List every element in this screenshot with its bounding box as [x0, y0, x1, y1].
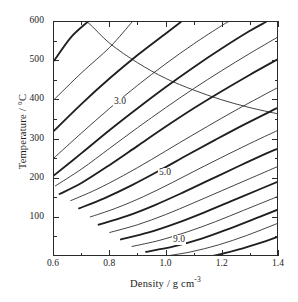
- contour-line: [110, 167, 277, 233]
- x-axis-major-tick-top: [278, 21, 279, 27]
- x-axis-minor-tick: [250, 253, 251, 257]
- y-axis-major-tick: [53, 217, 59, 218]
- x-axis-major-tick-top: [53, 21, 54, 27]
- contour-lines: [54, 22, 277, 255]
- contour-level-label: 9.0: [172, 235, 186, 245]
- x-axis-minor-tick-top: [81, 21, 82, 25]
- y-axis-minor-tick-right: [275, 41, 279, 42]
- contour-line: [121, 182, 277, 239]
- y-axis-minor-tick: [53, 158, 57, 159]
- contour-line: [71, 88, 277, 201]
- x-axis-tick-label: 1.4: [258, 259, 298, 269]
- x-axis-tick-label: 1.0: [146, 259, 186, 269]
- y-axis-minor-tick: [53, 80, 57, 81]
- x-axis-major-tick: [53, 250, 54, 256]
- x-axis-major-tick-top: [166, 21, 167, 27]
- y-axis-major-tick-right: [272, 139, 278, 140]
- x-axis-major-tick-top: [222, 21, 223, 27]
- x-axis-tick-label: 0.8: [89, 259, 129, 269]
- y-axis-major-tick-right: [272, 178, 278, 179]
- contour-line: [79, 108, 277, 208]
- y-axis-minor-tick-right: [275, 119, 279, 120]
- y-axis-major-tick-right: [272, 60, 278, 61]
- contour-line: [90, 131, 277, 217]
- y-axis-major-tick: [53, 60, 59, 61]
- x-axis-minor-tick-top: [194, 21, 195, 25]
- contour-figure: 3.05.09.0 100200300400500600 0.60.81.01.…: [0, 0, 298, 302]
- contour-line: [54, 22, 87, 61]
- y-axis-minor-tick: [53, 119, 57, 120]
- y-axis-major-tick-right: [272, 99, 278, 100]
- x-axis-major-tick: [109, 250, 110, 256]
- y-axis-minor-tick: [53, 236, 57, 237]
- y-axis-minor-tick: [53, 41, 57, 42]
- x-axis-major-tick-top: [109, 21, 110, 27]
- x-axis-minor-tick-top: [137, 21, 138, 25]
- x-axis-minor-tick: [137, 253, 138, 257]
- x-axis-title-exponent: -3: [194, 275, 201, 284]
- plot-area: [53, 21, 278, 256]
- y-axis-major-tick-right: [272, 217, 278, 218]
- y-axis-tick-label: 600: [0, 16, 44, 26]
- y-axis-tick-label: 100: [0, 212, 44, 222]
- y-axis-minor-tick: [53, 197, 57, 198]
- y-axis-minor-tick-right: [275, 80, 279, 81]
- contour-line: [146, 210, 277, 252]
- y-axis-minor-tick-right: [275, 197, 279, 198]
- y-axis-title: Temperature / °C: [17, 52, 28, 212]
- y-axis-minor-tick-right: [275, 236, 279, 237]
- x-axis-title: Density / g cm-3: [53, 275, 278, 289]
- x-axis-major-tick: [166, 250, 167, 256]
- x-axis-minor-tick: [194, 253, 195, 257]
- contour-line: [54, 22, 132, 100]
- x-axis-title-text: Density / g cm: [130, 278, 194, 289]
- y-axis-major-tick: [53, 178, 59, 179]
- contour-line: [99, 149, 277, 225]
- x-axis-major-tick: [222, 250, 223, 256]
- contour-level-label: 3.0: [113, 97, 127, 107]
- contour-line: [132, 197, 277, 247]
- y-axis-minor-tick-right: [275, 158, 279, 159]
- x-axis-major-tick: [278, 250, 279, 256]
- y-axis-major-tick: [53, 139, 59, 140]
- x-axis-minor-tick: [81, 253, 82, 257]
- contour-level-label: 5.0: [158, 168, 172, 178]
- y-axis-major-tick: [53, 99, 59, 100]
- x-axis-minor-tick-top: [250, 21, 251, 25]
- contour-line: [54, 22, 228, 158]
- x-axis-tick-label: 1.2: [202, 259, 242, 269]
- x-axis-tick-label: 0.6: [33, 259, 73, 269]
